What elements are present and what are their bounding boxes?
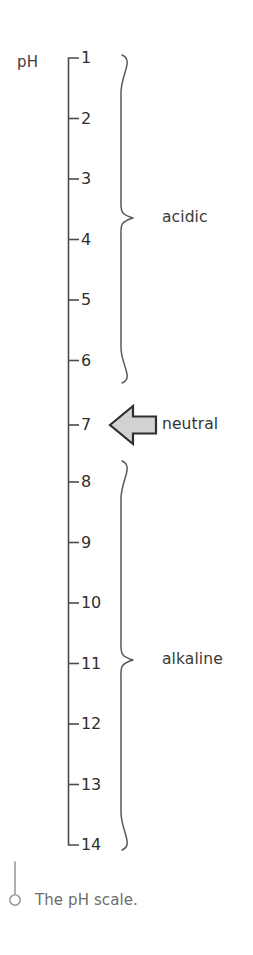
tick-label-7: 7 — [81, 417, 91, 433]
tick-label-8: 8 — [81, 474, 91, 490]
ph-axis — [69, 58, 80, 845]
tick-label-6: 6 — [81, 353, 91, 369]
axis-title: pH — [17, 55, 38, 70]
tick-label-14: 14 — [81, 837, 101, 853]
tick-label-2: 2 — [81, 111, 91, 127]
region-label-alkaline: alkaline — [162, 652, 223, 668]
tick-label-10: 10 — [81, 595, 101, 611]
tick-label-3: 3 — [81, 171, 91, 187]
ph-scale-figure: pH 1 2 3 4 5 6 7 8 9 10 11 12 13 14 acid… — [0, 0, 253, 955]
tick-label-9: 9 — [81, 535, 91, 551]
neutral-arrow-icon — [110, 406, 156, 444]
alkaline-brace — [121, 461, 133, 850]
alkaline-brace-path — [121, 461, 133, 850]
region-label-acidic: acidic — [162, 210, 208, 226]
acidic-brace-path — [121, 55, 133, 383]
pin-circle-icon — [10, 862, 20, 905]
axis-ticks — [69, 119, 80, 785]
axis-line — [69, 58, 80, 845]
annotation-label-neutral: neutral — [162, 417, 218, 433]
acidic-brace — [121, 55, 133, 383]
tick-label-5: 5 — [81, 292, 91, 308]
neutral-arrow-shape — [110, 406, 156, 444]
ph-scale-graphic — [0, 0, 253, 955]
tick-label-12: 12 — [81, 716, 101, 732]
tick-label-1: 1 — [81, 50, 91, 66]
tick-label-4: 4 — [81, 232, 91, 248]
tick-label-13: 13 — [81, 777, 101, 793]
figure-caption: The pH scale. — [35, 893, 138, 908]
pin-circle — [10, 895, 20, 905]
tick-label-11: 11 — [81, 656, 101, 672]
